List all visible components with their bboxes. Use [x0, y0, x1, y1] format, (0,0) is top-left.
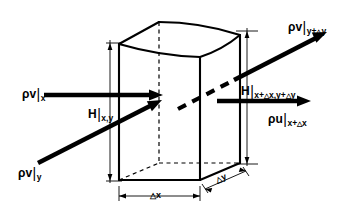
label-head-xdxydy-sub-b: x,y+	[269, 90, 286, 100]
edge-bottom-rear-left-hidden	[119, 163, 159, 180]
label-rho-v-at-x-base: ρv	[22, 87, 36, 101]
arrow-inflow-x	[44, 89, 163, 100]
label-rho-u-xdx-sub-a: x+	[287, 118, 297, 128]
dim-arrowhead-dx-right	[193, 194, 200, 199]
dim-arrowhead-top-right	[245, 31, 250, 38]
label-rho-u-xdx-base: ρu	[268, 112, 283, 126]
label-rho-u-at-x-plus-delta-x: ρu|x+△x	[268, 110, 307, 126]
dim-arrowhead-bottom-right	[245, 157, 250, 164]
label-rho-v-at-y-plus-delta-y: ρv|y+△y	[288, 18, 326, 34]
edge-top-right-curve	[200, 35, 240, 57]
label-rho-v-ydy-sub-a: y+	[307, 26, 317, 36]
dimension-label-delta-x-text: x	[156, 190, 161, 200]
figure-root: ρv|x H|x,y ρv|y ρv|y+△y H|x+△x,y+△y ρu|x…	[0, 0, 355, 213]
label-rho-v-at-x-sub: x	[41, 93, 46, 103]
label-rho-u-xdx-sub-b: x	[302, 118, 307, 128]
dim-arrowhead-top-left	[108, 43, 113, 50]
dim-arrowhead-bottom-left	[108, 174, 113, 181]
label-head-at-x-y-sub: x,y	[101, 113, 113, 123]
arrow-outflow-y	[234, 32, 327, 80]
arrow-outflow-y-hidden-segment	[178, 81, 232, 109]
label-head-xdxydy-sub-a: x+	[254, 90, 264, 100]
label-rho-v-at-y-base: ρv	[18, 166, 32, 180]
label-head-at-x-y-base: H	[88, 107, 97, 121]
edge-top-rear-left-curve	[119, 22, 159, 44]
dim-arrowhead-dx-left	[119, 194, 126, 199]
dimension-label-delta-x: △x	[150, 191, 161, 200]
label-head-at-x-plus-delta-x-y-plus-delta-y: H|x+△x,y+△y	[241, 82, 296, 98]
label-head-xdxydy-base: H	[241, 84, 250, 98]
label-rho-v-ydy-base: ρv	[288, 20, 302, 34]
label-rho-v-ydy-sub-b: y	[321, 26, 326, 36]
edge-top-rear-curve	[159, 22, 240, 35]
label-rho-v-at-y: ρv|y	[18, 164, 41, 180]
label-head-xdxydy-sub-c: y	[291, 90, 296, 100]
label-head-at-x-y: H|x,y	[88, 105, 113, 121]
label-rho-v-at-x: ρv|x	[22, 85, 45, 101]
label-rho-v-at-y-sub: y	[37, 172, 42, 182]
